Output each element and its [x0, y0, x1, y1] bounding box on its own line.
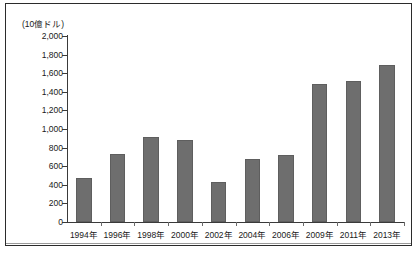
- y-axis-tick-mark: [62, 36, 67, 37]
- bar: [76, 178, 92, 222]
- bar: [312, 84, 328, 222]
- y-axis-tick-mark: [62, 185, 67, 186]
- x-axis-tick-mark: [236, 222, 237, 226]
- y-axis-tick-mark: [62, 110, 67, 111]
- x-axis-tick-mark: [404, 222, 405, 226]
- x-axis-tick-label: 1994年: [70, 228, 98, 240]
- y-axis-tick-mark: [62, 55, 67, 56]
- bar: [143, 137, 159, 222]
- x-axis-tick-label: 2011年: [340, 228, 367, 240]
- x-axis-tick-mark: [337, 222, 338, 226]
- x-axis-tick-mark: [202, 222, 203, 226]
- bar: [379, 65, 395, 222]
- bar: [346, 81, 362, 222]
- label-strip-divider: [6, 243, 411, 244]
- y-axis-tick-mark: [62, 166, 67, 167]
- x-axis-tick-mark: [269, 222, 270, 226]
- bar: [177, 140, 193, 222]
- plot-area: [67, 36, 404, 222]
- y-axis-tick-labels: 2,0001,8001,6001,4001,2001,0008006004002…: [0, 0, 63, 254]
- x-axis-tick-mark: [134, 222, 135, 226]
- y-axis-tick-mark: [62, 92, 67, 93]
- x-axis-tick-mark: [370, 222, 371, 226]
- y-axis-tick-mark: [62, 148, 67, 149]
- x-axis-tick-label: 2000年: [171, 228, 199, 240]
- y-axis-tick-label: 1,600: [42, 68, 63, 78]
- x-axis-tick-label: 2004年: [238, 228, 266, 240]
- x-axis-tick-mark: [168, 222, 169, 226]
- y-axis-tick-label: 200: [49, 198, 63, 208]
- x-axis-tick-mark: [303, 222, 304, 226]
- bar: [278, 155, 294, 222]
- y-axis-tick-mark: [62, 129, 67, 130]
- y-axis-tick-mark: [62, 222, 67, 223]
- bar: [211, 182, 227, 222]
- y-axis-tick-label: 400: [49, 180, 63, 190]
- y-axis-tick-mark: [62, 73, 67, 74]
- y-axis-tick-label: 600: [49, 161, 63, 171]
- x-axis-tick-label: 2002年: [205, 228, 233, 240]
- x-axis-tick-labels: 1994年1996年1998年2000年2002年2004年2006年2009年…: [67, 228, 404, 244]
- y-axis-tick-mark: [62, 203, 67, 204]
- x-axis-tick-label: 1998年: [137, 228, 165, 240]
- x-axis-tick-label: 2013年: [373, 228, 401, 240]
- y-axis-tick-label: 800: [49, 143, 63, 153]
- x-axis-tick-label: 1996年: [104, 228, 132, 240]
- x-axis-tick-label: 2009年: [306, 228, 334, 240]
- y-axis-tick-label: 1,200: [42, 105, 63, 115]
- x-axis-tick-label: 2006年: [272, 228, 300, 240]
- y-axis-tick-label: 1,400: [42, 87, 63, 97]
- y-axis-tick-label: 1,800: [42, 50, 63, 60]
- y-axis-tick-label: 2,000: [42, 31, 63, 41]
- x-axis-tick-mark: [101, 222, 102, 226]
- bar: [110, 154, 126, 222]
- bar: [245, 159, 261, 222]
- y-axis-tick-label: 1,000: [42, 124, 63, 134]
